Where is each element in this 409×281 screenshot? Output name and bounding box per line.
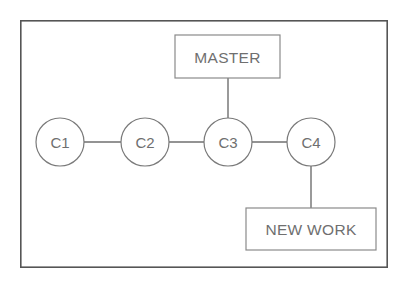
new-work-box-label: NEW WORK bbox=[265, 221, 356, 238]
commit-node-c2[interactable]: C2 bbox=[121, 118, 169, 166]
commit-label-c3: C3 bbox=[218, 134, 237, 151]
ref-box-master[interactable]: MASTER bbox=[175, 35, 280, 78]
commit-label-c1: C1 bbox=[50, 134, 69, 151]
ref-box-new-work[interactable]: NEW WORK bbox=[246, 208, 376, 250]
commit-node-c1[interactable]: C1 bbox=[36, 118, 84, 166]
master-box-label: MASTER bbox=[194, 49, 260, 66]
diagram-canvas: MASTER NEW WORK C1 C2 C3 C4 bbox=[0, 0, 409, 281]
git-branch-diagram: MASTER NEW WORK C1 C2 C3 C4 bbox=[0, 0, 409, 281]
commit-node-c4[interactable]: C4 bbox=[287, 118, 335, 166]
commit-label-c2: C2 bbox=[135, 134, 154, 151]
commit-node-c3[interactable]: C3 bbox=[204, 118, 252, 166]
commit-label-c4: C4 bbox=[301, 134, 320, 151]
